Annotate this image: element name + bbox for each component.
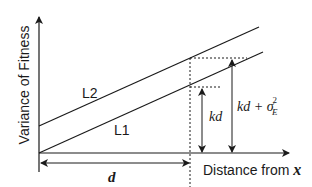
line-l2 <box>39 27 259 126</box>
x-variable: x <box>292 161 301 178</box>
line-l1 <box>39 52 263 153</box>
x-axis-label: Distance from x <box>203 161 301 178</box>
line-l1-label: L1 <box>114 122 130 138</box>
d-label: d <box>108 169 116 185</box>
line-l2-label: L2 <box>82 85 98 101</box>
sigma-subscript: E <box>271 107 278 117</box>
kd-sigma-label: kd + σ2E <box>237 95 278 117</box>
variance-fitness-diagram: Variance of Fitness L2 L1 d kd kd + σ2E … <box>0 0 312 187</box>
kd-label: kd <box>209 109 223 124</box>
sigma-superscript: 2 <box>273 95 278 105</box>
y-axis-label: Variance of Fitness <box>16 26 32 145</box>
